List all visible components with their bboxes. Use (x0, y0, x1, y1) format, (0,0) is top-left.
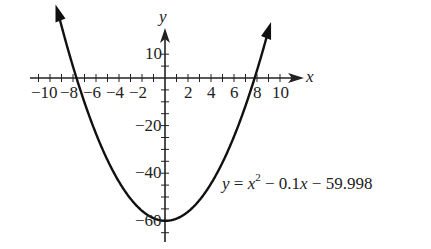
x-tick-label: −10 (31, 84, 58, 101)
x-tick-label: 2 (184, 84, 193, 101)
curve-arrow-left-icon (55, 5, 65, 23)
x-tick-label: 10 (272, 84, 289, 101)
y-tick-label: −40 (135, 164, 162, 181)
plot-area (0, 0, 431, 249)
equation-label: y = x2 − 0.1x − 59.998 (222, 174, 372, 194)
x-tick-label: −2 (129, 84, 147, 101)
x-tick-label: −6 (83, 84, 101, 101)
x-tick-label: 8 (253, 84, 262, 101)
y-tick-label: 10 (145, 45, 162, 62)
x-tick-label: 4 (207, 84, 216, 101)
curve-arrow-right-icon (261, 22, 271, 40)
y-tick-label: −60 (135, 212, 162, 229)
x-tick-label: −8 (60, 84, 78, 101)
y-tick-label: −20 (135, 117, 162, 134)
x-tick-label: −4 (106, 84, 124, 101)
x-tick-label: 6 (230, 84, 239, 101)
y-axis-label: y (159, 8, 167, 25)
x-axis-label: x (306, 68, 314, 85)
